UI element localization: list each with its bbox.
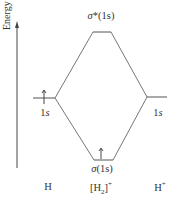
correlation-line-left-up — [55, 32, 93, 98]
correlation-line-right-down — [113, 97, 147, 160]
species-right-label: H+ — [154, 181, 166, 193]
antibonding-label: σ*(1s) — [88, 11, 115, 22]
species-center-label: [H2]+ — [90, 181, 112, 196]
bonding-label: σ(1s) — [91, 164, 113, 175]
energy-axis-arrowhead-icon — [15, 21, 19, 28]
correlation-line-left-down — [55, 98, 94, 160]
correlation-line-right-up — [111, 32, 147, 97]
mo-diagram-lines — [0, 0, 178, 200]
right-1s-label: 1s — [153, 108, 162, 119]
energy-axis-label: Energy — [1, 1, 12, 30]
species-left-label: H — [44, 182, 52, 193]
left-1s-label: 1s — [40, 108, 49, 119]
